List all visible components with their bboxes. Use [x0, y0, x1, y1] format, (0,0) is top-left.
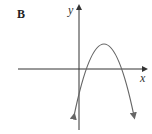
y-axis-label: y	[67, 3, 74, 17]
parabola-curve	[74, 44, 134, 116]
x-axis-label: x	[139, 71, 146, 85]
parabola-graph: y x	[0, 0, 152, 134]
